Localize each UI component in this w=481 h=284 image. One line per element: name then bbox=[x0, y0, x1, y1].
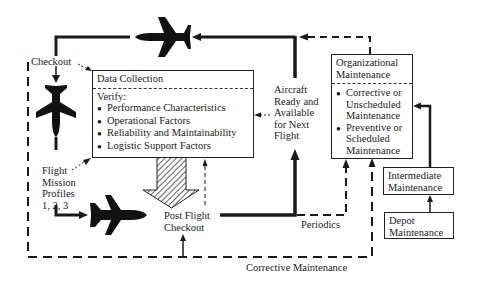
org-item-line: Preventive or bbox=[346, 122, 402, 134]
bullet-icon: ● bbox=[97, 116, 107, 128]
hatched-flow-arrow-icon bbox=[143, 157, 199, 208]
depot-line-2: Maintenance bbox=[389, 227, 449, 239]
intermediate-line-1: Intermediate bbox=[388, 170, 449, 182]
bullet-icon: ● bbox=[97, 128, 107, 140]
corrective-maintenance-label: Corrective Maintenance bbox=[246, 262, 347, 274]
depot-to-intermediate-arrow bbox=[427, 195, 433, 212]
org-return-dashed-line bbox=[299, 34, 370, 55]
verify-label: Verify: bbox=[97, 91, 249, 103]
verify-item: ●Operational Factors bbox=[97, 115, 249, 128]
flight-mission-line-3: Profiles bbox=[42, 188, 76, 200]
post-flight-to-ready-line bbox=[220, 149, 300, 215]
org-title-line-2: Maintenance bbox=[336, 69, 408, 81]
intermediate-to-org-line bbox=[413, 103, 430, 168]
data-collection-box: Data Collection Verify: ●Performance Cha… bbox=[92, 70, 254, 158]
bullet-icon: ● bbox=[97, 141, 107, 153]
checkout-arrow bbox=[52, 66, 60, 83]
verify-item-text: Performance Characteristics bbox=[107, 102, 226, 114]
flight-mission-line-1: Flight bbox=[42, 165, 76, 177]
org-item: ● Preventive or Scheduled Maintenance bbox=[336, 122, 408, 157]
intermediate-line-2: Maintenance bbox=[388, 182, 449, 194]
post-flight-line-1: Post Flight bbox=[164, 210, 210, 222]
depot-line-1: Depot bbox=[389, 215, 449, 227]
verify-item-text: Operational Factors bbox=[107, 115, 190, 127]
org-item-line: Maintenance bbox=[346, 110, 402, 122]
bullet-icon: ● bbox=[336, 88, 346, 100]
organizational-maintenance-box: Organizational Maintenance ● Corrective … bbox=[331, 54, 413, 159]
post-flight-to-data-dashed bbox=[203, 159, 208, 205]
bullet-icon: ● bbox=[336, 123, 346, 135]
org-maintenance-body: ● Corrective or Unscheduled Maintenance … bbox=[332, 84, 412, 158]
verify-item: ●Reliability and Maintainability bbox=[97, 127, 249, 140]
verify-item: ●Performance Characteristics bbox=[97, 102, 249, 115]
verify-item-text: Logistic Support Factors bbox=[107, 140, 211, 152]
flight-mission-profiles-label: Flight Mission Profiles 1, 2, 3 bbox=[42, 165, 76, 211]
org-item: ● Corrective or Unscheduled Maintenance bbox=[336, 87, 408, 122]
org-title-line-1: Organizational bbox=[336, 57, 408, 69]
verify-item-text: Reliability and Maintainability bbox=[107, 127, 236, 139]
checkout-label: Checkout bbox=[31, 56, 71, 68]
intermediate-maintenance-box: Intermediate Maintenance bbox=[383, 167, 454, 195]
aircraft-ready-line-3: Available bbox=[274, 107, 319, 119]
org-item-line: Scheduled bbox=[346, 133, 402, 145]
verify-item: ●Logistic Support Factors bbox=[97, 140, 249, 153]
org-item-text: Preventive or Scheduled Maintenance bbox=[346, 122, 402, 157]
aircraft-ready-line-5: Flight bbox=[274, 130, 319, 142]
periodics-label: Periodics bbox=[301, 219, 340, 231]
aircraft-ready-pointer bbox=[254, 113, 270, 118]
aircraft-ready-label: Aircraft Ready and Available for Next Fl… bbox=[274, 84, 319, 142]
post-flight-checkout-label: Post Flight Checkout bbox=[164, 210, 210, 233]
aircraft-ready-line-1: Aircraft bbox=[274, 84, 319, 96]
org-item-line: Corrective or bbox=[346, 87, 402, 99]
periodics-dashed-line bbox=[297, 159, 350, 215]
airplane-down-icon bbox=[36, 85, 76, 137]
aircraft-ready-line-2: Ready and bbox=[274, 96, 319, 108]
aircraft-ready-line-4: for Next bbox=[274, 119, 319, 131]
flight-mission-line-2: Mission bbox=[42, 177, 76, 189]
airplane-right-icon bbox=[90, 195, 147, 235]
post-flight-feedback-arrow bbox=[180, 234, 186, 257]
flight-mission-line-4: 1, 2, 3 bbox=[42, 200, 76, 212]
checkout-pointer bbox=[78, 64, 92, 71]
org-maintenance-title: Organizational Maintenance bbox=[332, 55, 412, 84]
airplane-left-icon bbox=[135, 17, 191, 57]
data-collection-body: Verify: ●Performance Characteristics ●Op… bbox=[93, 89, 253, 155]
org-item-line: Unscheduled bbox=[346, 99, 402, 111]
post-flight-line-2: Checkout bbox=[164, 222, 210, 234]
bullet-icon: ● bbox=[97, 103, 107, 115]
org-item-line: Maintenance bbox=[346, 145, 402, 157]
data-collection-title: Data Collection bbox=[93, 71, 253, 89]
org-item-text: Corrective or Unscheduled Maintenance bbox=[346, 87, 402, 122]
depot-maintenance-box: Depot Maintenance bbox=[384, 212, 454, 239]
